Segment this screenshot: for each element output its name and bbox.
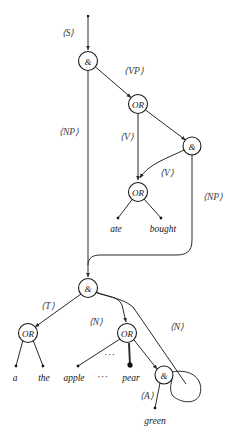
edge-or-v-to-bought — [144, 199, 161, 218]
node-or-n-label: OR — [121, 329, 133, 339]
edge-and-n-to-green — [155, 383, 160, 408]
edge-label-v-2: ⟨V⟩ — [160, 168, 174, 178]
edge-label-vp: ⟨VP⟩ — [124, 66, 144, 76]
node-and-np-label: & — [84, 284, 91, 294]
terminal-a: a — [13, 373, 18, 383]
grammar-graph: & OR & OR & OR OR — [0, 0, 239, 441]
terminal-apple: apple — [63, 373, 84, 383]
edge-or-n-to-pear — [129, 343, 130, 365]
edge-or-vp-to-and-vp — [146, 110, 186, 140]
node-or-vp-label: OR — [132, 100, 144, 110]
node-or-vp[interactable]: OR — [129, 95, 148, 114]
ellipsis-terminals: ··· — [97, 372, 108, 382]
edge-or-n-to-and-n — [134, 340, 157, 369]
edge-or-t-to-a — [16, 340, 23, 366]
ellipsis-branches: ··· — [104, 350, 115, 360]
edge-label-np-2: ⟨NP⟩ — [203, 192, 223, 202]
node-or-t-label: OR — [22, 329, 34, 339]
edge-or-v-to-ate — [118, 199, 133, 218]
node-and-n[interactable]: & — [155, 366, 173, 384]
edge-and-np-right-stub — [97, 293, 134, 308]
node-and-s-label: & — [84, 57, 91, 67]
edge-or-t-to-the — [33, 340, 43, 366]
edge-and-n-recursive-loop — [171, 371, 201, 402]
edge-label-a: ⟨A⟩ — [140, 391, 154, 401]
edge-label-t: ⟨T⟩ — [41, 301, 54, 311]
edge-label-s: ⟨S⟩ — [62, 28, 75, 38]
terminal-green: green — [144, 416, 166, 426]
terminal-the: the — [38, 373, 50, 383]
node-and-s[interactable]: & — [79, 52, 98, 71]
node-or-t[interactable]: OR — [19, 324, 38, 343]
edge-label-np-1: ⟨NP⟩ — [59, 127, 79, 137]
terminal-ate: ate — [110, 224, 122, 234]
edge-label-v-1: ⟨V⟩ — [120, 132, 134, 142]
edge-label-n-2: ⟨N⟩ — [170, 322, 184, 332]
edge-label-n-1: ⟨N⟩ — [89, 317, 103, 327]
node-and-n-label: & — [160, 371, 167, 381]
terminal-pear: pear — [121, 373, 140, 383]
node-and-np[interactable]: & — [79, 279, 98, 298]
node-and-vp-label: & — [188, 142, 195, 152]
node-or-v[interactable]: OR — [129, 183, 148, 202]
edge-and-vp-np-loop — [88, 155, 192, 265]
node-and-vp[interactable]: & — [183, 137, 201, 155]
node-or-v-label: OR — [132, 188, 144, 198]
figure-canvas: & OR & OR & OR OR — [0, 0, 239, 441]
terminal-bought: bought — [150, 224, 177, 234]
node-or-n[interactable]: OR — [118, 324, 137, 343]
